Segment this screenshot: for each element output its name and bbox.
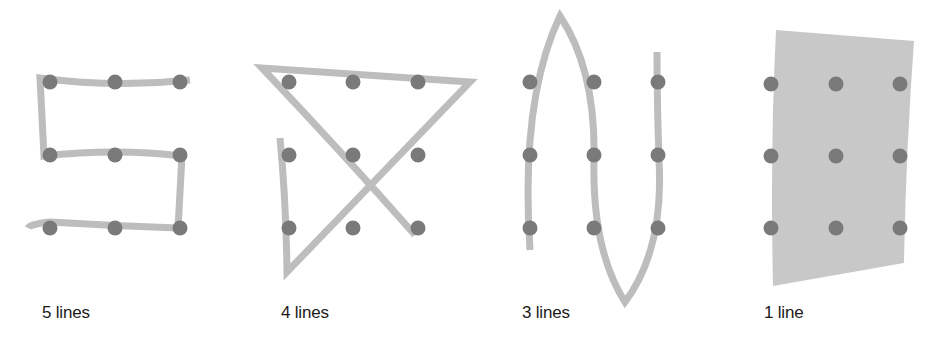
dot (651, 221, 666, 236)
panel-label-five-lines: 5 lines (42, 303, 90, 323)
panel-four-lines (262, 68, 470, 272)
dot (829, 77, 844, 92)
dot (173, 221, 188, 236)
dot (346, 148, 361, 163)
panel-label-four-lines: 4 lines (281, 303, 329, 323)
panel-label-one-line: 1 line (764, 303, 803, 323)
dot (651, 75, 666, 90)
dot (173, 75, 188, 90)
dot (523, 148, 538, 163)
dot (173, 148, 188, 163)
dot (587, 75, 602, 90)
dot (523, 221, 538, 236)
dot (43, 148, 58, 163)
dot (108, 148, 123, 163)
dot (587, 221, 602, 236)
dot (411, 221, 426, 236)
dot (764, 149, 779, 164)
dot (523, 75, 538, 90)
dot (651, 148, 666, 163)
dot (764, 221, 779, 236)
dot (43, 75, 58, 90)
nine-dot-puzzle-diagram (0, 0, 929, 350)
dot (282, 148, 297, 163)
dot (108, 221, 123, 236)
dot (829, 149, 844, 164)
dot (108, 75, 123, 90)
panel-label-three-lines: 3 lines (522, 303, 570, 323)
dot (587, 148, 602, 163)
dot (282, 75, 297, 90)
dot (346, 75, 361, 90)
dot (346, 221, 361, 236)
dot (829, 221, 844, 236)
panel-one-line (764, 30, 915, 286)
dot (893, 149, 908, 164)
dot (43, 221, 58, 236)
panel-five-lines (28, 75, 190, 236)
dot (411, 75, 426, 90)
dot (893, 221, 908, 236)
dot (764, 77, 779, 92)
dot (411, 148, 426, 163)
solution-path-four-lines (262, 68, 470, 272)
panel-three-lines (523, 16, 666, 302)
dot (893, 77, 908, 92)
dot (282, 221, 297, 236)
